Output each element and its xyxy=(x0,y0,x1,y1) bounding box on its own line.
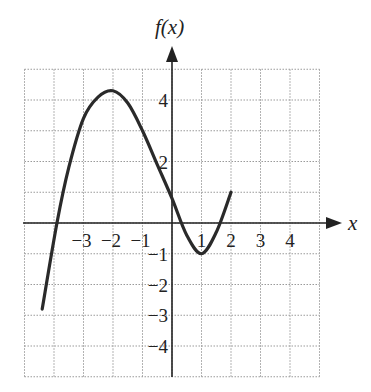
x-axis-label: x xyxy=(347,211,358,235)
x-axis-arrow-icon xyxy=(326,217,342,229)
y-axis-arrow-icon xyxy=(166,46,178,62)
tick-label: 4 xyxy=(285,230,295,251)
function-graph: x f(x) −3−2−1123442−1−2−3−4 xyxy=(0,0,371,392)
function-curve xyxy=(42,91,231,310)
tick-label: −3 xyxy=(71,230,91,251)
tick-label: −2 xyxy=(148,275,168,296)
tick-label: 1 xyxy=(197,230,207,251)
y-axis-label: f(x) xyxy=(155,15,184,39)
tick-label: −4 xyxy=(148,336,169,357)
axes xyxy=(23,46,342,377)
tick-label: −3 xyxy=(148,305,168,326)
tick-label: 2 xyxy=(226,230,236,251)
tick-label: 3 xyxy=(256,230,266,251)
tick-label: 4 xyxy=(159,90,169,111)
tick-label: −2 xyxy=(101,230,121,251)
tick-label: −1 xyxy=(148,244,168,265)
